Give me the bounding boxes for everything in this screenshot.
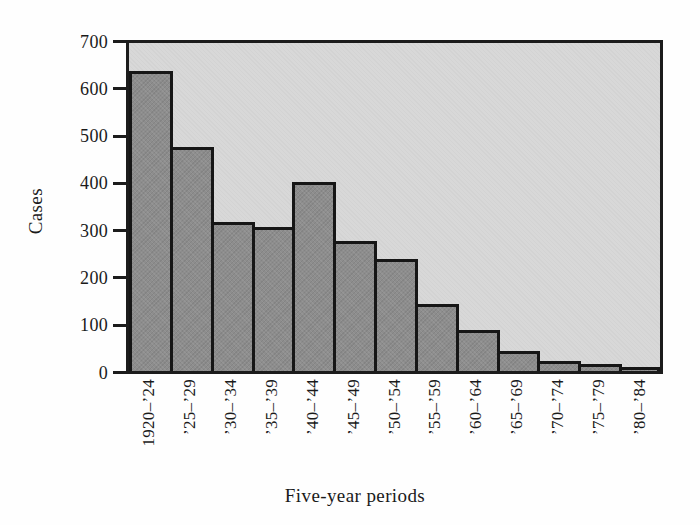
y-tick-mark [113,276,126,279]
x-tick-label: ’60–’64 [465,379,487,435]
x-tick-label: ’25–’29 [179,379,201,435]
bar-13 [619,367,660,371]
y-tick-label: 600 [40,78,108,100]
bar-5 [292,182,336,371]
bar-6 [333,241,377,371]
bar-7 [374,259,418,371]
bar-8 [415,304,459,371]
bar-2 [170,147,214,371]
bar-4 [252,227,296,371]
bar-1 [129,71,173,371]
x-tick-label: ’75–’79 [588,379,610,435]
y-tick-mark [113,182,126,185]
x-tick-label: ’55–’59 [424,379,446,435]
y-tick-mark [113,371,126,374]
x-tick-label: ’65–’69 [506,379,528,435]
x-tick-label: ’70–’74 [547,379,569,435]
bar-12 [578,364,622,371]
x-tick-label: ’45–’49 [343,379,365,435]
plot-area [126,40,663,374]
y-tick-label: 700 [40,31,108,53]
x-tick-label: ’40–’44 [302,379,324,435]
x-tick-label: ’35–’39 [261,379,283,435]
bar-chart-figure: Cases 0100200300400500600700 1920–’24’25… [0,0,700,525]
y-tick-label: 200 [40,267,108,289]
x-tick-label: 1920–’24 [138,379,160,447]
y-tick-label: 300 [40,220,108,242]
y-tick-mark [113,135,126,138]
bar-9 [456,330,500,371]
y-tick-label: 0 [40,362,108,384]
bar-10 [497,351,541,371]
y-tick-mark [113,40,126,43]
x-tick-label: ’50–’54 [384,379,406,435]
bar-3 [211,222,255,371]
x-tick-label: ’30–’34 [220,379,242,435]
y-tick-mark [113,324,126,327]
y-tick-mark [113,87,126,90]
y-tick-label: 100 [40,314,108,336]
x-tick-label: ’80–’84 [629,379,651,435]
y-tick-label: 400 [40,172,108,194]
y-tick-label: 500 [40,125,108,147]
y-tick-mark [113,229,126,232]
bar-11 [537,361,581,371]
x-axis-title: Five-year periods [88,485,622,507]
